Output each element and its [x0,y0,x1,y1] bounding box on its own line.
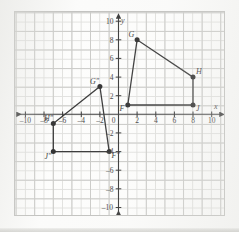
vertex-point-h [191,75,196,80]
x-tick-label-4: 4 [151,116,161,125]
y-tick-label--2: –2 [99,129,114,138]
vertex-label-g-image: G″ [90,77,99,86]
y-tick-label-4: 4 [102,73,114,82]
y-tick-label-6: 6 [102,54,114,63]
origin-label: 0 [109,116,118,125]
y-tick-label-8: 8 [102,36,114,45]
vertex-label-j-image: J″ [45,152,52,161]
vertex-point-g [135,37,140,42]
x-axis-label: x [214,102,218,111]
vertex-label-h-image: H″ [44,114,53,123]
vertex-label-h: H [196,67,202,76]
y-tick-label--8: –8 [99,185,114,194]
x-tick-label--6: –6 [56,116,70,125]
x-tick-label-6: 6 [169,116,179,125]
x-tick-label--2: –2 [93,116,107,125]
vertex-point-f [125,103,130,108]
y-tick-label-10: 10 [102,17,114,26]
coordinate-plane: x y 0 –10 –8 –6 –4 –2 2 4 6 8 10 10 8 6 … [14,11,225,216]
x-tick-label--4: –4 [74,116,88,125]
x-tick-label-10: 10 [206,116,218,125]
vertex-label-j: J [196,104,200,113]
page-bottom-edge [0,228,239,232]
vertex-label-f-image: F″ [112,151,120,160]
shape-fghj [128,40,193,105]
y-tick-label-2: 2 [102,92,114,101]
y-tick-label--10: –10 [96,203,113,212]
vertex-point-j [191,103,196,108]
x-tick-label-8: 8 [188,116,198,125]
vertex-label-g: G [129,30,135,39]
figure-page: x y 0 –10 –8 –6 –4 –2 2 4 6 8 10 10 8 6 … [0,0,239,232]
vertex-label-f: F [120,104,125,113]
y-tick-label--6: –6 [99,166,114,175]
x-tick-label-2: 2 [132,116,142,125]
vertex-point-j-image [51,149,56,154]
y-axis-label: y [121,16,125,25]
x-tick-label--10: –10 [17,116,33,125]
